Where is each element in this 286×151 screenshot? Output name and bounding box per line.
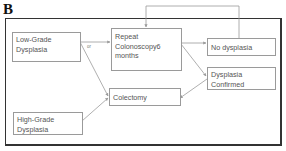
node-no-dysplasia: No dysplasia xyxy=(207,38,276,56)
node-repeat-colonoscopy: Repeat Colonoscopy6 months xyxy=(111,28,182,71)
node-text: Repeat xyxy=(115,32,178,42)
node-dysplasia-confirmed: Dysplasia Confirmed xyxy=(207,67,276,90)
node-colectomy: Colectomy xyxy=(109,88,181,106)
or-label: or xyxy=(87,44,91,49)
node-text: Confirmed xyxy=(211,80,272,90)
node-text: Dysplasia xyxy=(16,45,77,55)
node-text: months xyxy=(115,51,178,61)
node-text: Dysplasia xyxy=(211,70,272,80)
node-low-grade-dysplasia: Low-Grade Dysplasia xyxy=(12,32,81,62)
node-text: Low-Grade xyxy=(16,35,77,45)
node-high-grade-dysplasia: High-Grade Dysplasia xyxy=(13,112,83,135)
node-text: Colonoscopy6 xyxy=(115,42,178,52)
node-text: Dysplasia xyxy=(17,125,79,135)
node-text: Colectomy xyxy=(113,93,177,103)
node-text: No dysplasia xyxy=(211,43,272,53)
node-text: High-Grade xyxy=(17,115,79,125)
